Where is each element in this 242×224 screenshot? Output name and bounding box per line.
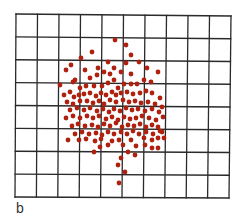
data-point: [149, 80, 154, 85]
data-point: [73, 132, 78, 137]
data-point: [110, 115, 115, 120]
data-point: [75, 106, 80, 111]
data-point: [119, 156, 124, 161]
data-point: [114, 121, 119, 126]
data-point: [101, 107, 106, 112]
data-point: [112, 66, 117, 71]
data-point: [150, 91, 155, 96]
data-point: [124, 106, 129, 111]
grid-line: [16, 60, 231, 62]
data-point: [97, 99, 102, 104]
grid-line: [15, 151, 229, 152]
data-point: [151, 132, 156, 137]
data-point: [137, 60, 142, 65]
data-point: [58, 83, 63, 88]
data-point: [85, 99, 90, 104]
data-point: [62, 93, 67, 98]
data-point: [99, 91, 104, 96]
data-point: [77, 93, 82, 98]
data-point: [143, 109, 148, 114]
data-point: [92, 84, 97, 89]
data-point: [125, 132, 130, 137]
data-point: [78, 116, 83, 121]
data-point: [92, 150, 97, 155]
data-point: [133, 153, 138, 158]
grid-lines: [15, 14, 231, 198]
data-point: [113, 38, 118, 43]
data-point: [121, 143, 126, 148]
data-point: [136, 107, 141, 112]
data-point: [93, 139, 98, 144]
data-point: [66, 138, 71, 143]
data-point: [100, 84, 105, 89]
data-point: [91, 101, 96, 106]
data-point: [83, 68, 88, 73]
data-point: [129, 72, 134, 77]
data-point: [96, 66, 101, 71]
data-point: [131, 129, 136, 134]
data-point: [138, 91, 143, 96]
data-point: [130, 108, 135, 113]
data-point: [107, 110, 112, 115]
data-point: [146, 100, 151, 105]
data-point: [70, 124, 75, 129]
data-point: [97, 114, 102, 119]
data-point: [106, 130, 111, 135]
data-point: [160, 130, 165, 135]
data-point: [112, 78, 117, 83]
data-point: [79, 56, 84, 61]
data-point: [129, 53, 134, 58]
data-point: [121, 98, 126, 103]
data-point: [90, 123, 95, 128]
data-point: [64, 68, 69, 73]
data-point: [126, 150, 131, 155]
data-point: [133, 99, 138, 104]
data-point: [90, 50, 95, 55]
data-point: [138, 122, 143, 127]
data-point: [127, 100, 132, 105]
data-point: [156, 136, 161, 141]
data-point: [106, 143, 111, 148]
data-point: [120, 125, 125, 130]
data-point: [135, 82, 140, 87]
grid-line: [15, 197, 229, 198]
data-point: [82, 92, 87, 97]
data-point: [88, 106, 93, 111]
data-point: [94, 94, 99, 99]
data-point: [104, 117, 109, 122]
data-point: [153, 102, 158, 107]
data-point: [71, 114, 76, 119]
data-point: [126, 123, 131, 128]
data-point: [82, 108, 87, 113]
data-point: [68, 90, 73, 95]
scatter-grid-figure: [0, 0, 242, 224]
data-point: [122, 82, 127, 87]
data-point: [84, 84, 89, 89]
data-point: [156, 146, 161, 151]
grid-line: [16, 106, 231, 108]
grid-line: [15, 174, 229, 175]
data-point: [142, 136, 147, 141]
data-point: [72, 95, 77, 100]
data-point: [147, 116, 152, 121]
data-point: [116, 86, 121, 91]
data-point: [131, 92, 136, 97]
data-point: [124, 43, 129, 48]
data-point: [76, 122, 81, 127]
data-point: [88, 76, 93, 81]
data-point: [161, 115, 166, 120]
data-point: [157, 110, 162, 115]
data-point: [85, 114, 90, 119]
data-point: [158, 96, 163, 101]
data-point: [110, 139, 115, 144]
data-point: [122, 115, 127, 120]
data-point: [142, 78, 147, 83]
data-point: [108, 124, 113, 129]
data-point: [108, 72, 113, 77]
data-point: [134, 144, 139, 149]
data-point: [95, 73, 100, 78]
data-point: [144, 89, 149, 94]
data-point: [99, 137, 104, 142]
data-point: [116, 163, 121, 168]
data-point: [102, 102, 107, 107]
